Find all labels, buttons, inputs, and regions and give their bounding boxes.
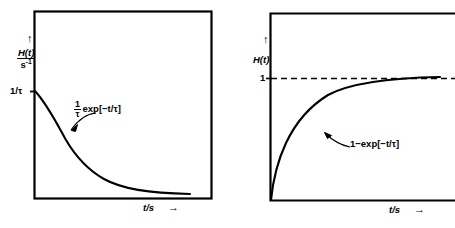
annotation-left-text: exp[−t/τ] [83,103,121,114]
x-axis-label-left: t/s [143,203,154,213]
y-axis-label-left: H(t) s-1 [17,48,35,70]
x-axis-arrow-right: → [414,204,425,215]
chart-panel-right: ↑ H(t) 1 1−exp[−t/τ] t/s → [228,0,455,228]
y-axis-label-denominator: s-1 [17,59,35,70]
plot-frame-right [271,14,455,201]
annotation-left-decay-formula: 1 τ exp[−t/τ] [74,100,121,119]
y-axis-label-right: H(t) [253,55,269,65]
y-axis-label-denominator-exponent: -1 [26,58,32,65]
figure-two-exponential-response-plots: ↑ H(t) s-1 1/τ 1 τ exp[−t/τ] t/s → [0,0,455,228]
y-tick-label-one: 1 [260,73,265,83]
x-axis-arrow-left: → [168,202,179,213]
y-axis-arrow-right: ↑ [263,34,269,45]
annotation-fraction-denominator: τ [74,110,81,119]
plot-frame-left [35,12,212,199]
annotation-right-step-formula: 1−exp[−t/τ] [350,139,399,149]
x-axis-label-right: t/s [389,205,400,215]
y-tick-label-1-over-tau: 1/τ [10,86,22,96]
y-axis-arrow-left: ↑ [27,33,33,44]
chart-panel-left: ↑ H(t) s-1 1/τ 1 τ exp[−t/τ] t/s → [0,0,228,228]
